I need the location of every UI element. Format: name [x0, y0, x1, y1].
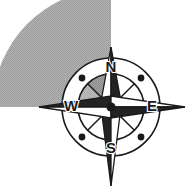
northwest-dot — [79, 75, 86, 82]
label-south: S — [106, 139, 116, 156]
label-north: N — [106, 58, 117, 75]
northeast-dot — [138, 75, 145, 82]
label-west: W — [64, 97, 79, 114]
compass-hub — [106, 102, 115, 111]
compass-rose-figure: N E S W — [0, 0, 192, 194]
southeast-dot — [138, 134, 145, 141]
southwest-dot — [79, 134, 86, 141]
compass-rose-canvas: N E S W — [0, 0, 192, 194]
label-east: E — [147, 97, 157, 114]
